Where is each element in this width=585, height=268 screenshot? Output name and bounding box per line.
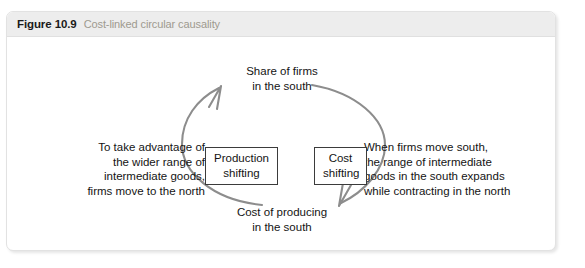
- box-production-shifting: Production shifting: [205, 147, 278, 185]
- box-cost-shifting: Cost shifting: [314, 147, 367, 185]
- node-cost-of-producing: Cost of producing in the south: [7, 205, 556, 234]
- figure-header: Figure 10.9 Cost-linked circular causali…: [7, 12, 555, 37]
- node-firms-move-south-explanation: When firms move south, the range of inte…: [364, 140, 544, 198]
- figure-container: Figure 10.9 Cost-linked circular causali…: [6, 11, 556, 251]
- diagram-canvas: Share of firms in the south Cost of prod…: [7, 37, 556, 251]
- node-share-of-firms: Share of firms in the south: [7, 64, 556, 93]
- arrowhead-down-icon: [339, 183, 351, 206]
- node-firms-move-north-explanation: To take advantage of the wider range of …: [75, 140, 205, 198]
- figure-caption: Cost-linked circular causality: [84, 18, 220, 30]
- figure-number: Figure 10.9: [17, 18, 77, 30]
